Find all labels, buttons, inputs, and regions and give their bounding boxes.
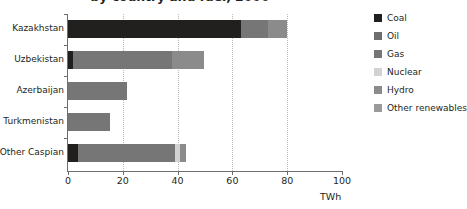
bar-segment-coal[interactable] [68, 20, 241, 38]
x-tick-label-20: 20 [103, 175, 143, 186]
bar-segment-hydro[interactable] [180, 144, 185, 162]
bar-other-caspian[interactable] [68, 144, 186, 162]
legend-item-coal[interactable]: Coal [374, 9, 467, 26]
y-tick-1 [64, 45, 68, 46]
legend-swatch-icon [374, 104, 382, 112]
chart-title: by country and fuel, 2000 [0, 0, 360, 4]
x-tick-label-100: 100 [322, 175, 362, 186]
bar-uzbekistan[interactable] [68, 51, 204, 69]
legend-item-oil[interactable]: Oil [374, 27, 467, 44]
legend-item-nuclear[interactable]: Nuclear [374, 63, 467, 80]
chart-figure: by country and fuel, 2000 KazakhstanUzbe… [0, 0, 467, 209]
legend-label: Nuclear [387, 67, 422, 77]
legend-swatch-icon [374, 14, 382, 22]
bar-segment-hydro[interactable] [172, 51, 204, 69]
y-tick-4 [64, 138, 68, 139]
x-tick-label-0: 0 [48, 175, 88, 186]
x-axis-title: TWh [320, 191, 341, 202]
legend-item-other-renewables[interactable]: Other renewables [374, 99, 467, 116]
y-axis-label-uzbekistan: Uzbekistan [0, 54, 64, 64]
y-tick-3 [64, 107, 68, 108]
gridline-80 [287, 14, 289, 171]
x-tick-label-80: 80 [267, 175, 307, 186]
legend-label: Coal [387, 13, 407, 23]
bar-azerbaijan[interactable] [68, 82, 127, 100]
legend-item-hydro[interactable]: Hydro [374, 81, 467, 98]
plot-area [68, 14, 342, 171]
bar-segment-gas[interactable] [68, 113, 110, 131]
legend-label: Other renewables [387, 103, 467, 113]
legend-label: Hydro [387, 85, 414, 95]
y-axis-label-kazakhstan: Kazakhstan [0, 23, 64, 33]
legend-label: Gas [387, 49, 404, 59]
y-axis-label-azerbaijan: Azerbaijan [0, 85, 64, 95]
legend-swatch-icon [374, 32, 382, 40]
x-tick-label-60: 60 [212, 175, 252, 186]
bar-segment-gas[interactable] [68, 82, 127, 100]
y-axis-label-turkmenistan: Turkmenistan [0, 116, 64, 126]
legend-swatch-icon [374, 68, 382, 76]
legend: CoalOilGasNuclearHydroOther renewables [374, 9, 467, 117]
legend-swatch-icon [374, 50, 382, 58]
bar-turkmenistan[interactable] [68, 113, 110, 131]
x-axis-line [67, 171, 342, 172]
x-tick-label-40: 40 [158, 175, 198, 186]
bar-segment-coal[interactable] [68, 144, 78, 162]
y-tick-2 [64, 76, 68, 77]
y-axis-label-other-caspian: Other Caspian [0, 147, 64, 157]
legend-label: Oil [387, 31, 399, 41]
legend-item-gas[interactable]: Gas [374, 45, 467, 62]
legend-swatch-icon [374, 86, 382, 94]
bar-segment-hydro[interactable] [268, 20, 287, 38]
bar-kazakhstan[interactable] [68, 20, 287, 38]
bar-segment-gas[interactable] [73, 51, 172, 69]
bar-segment-gas[interactable] [241, 20, 268, 38]
y-tick-0 [64, 14, 68, 15]
bar-segment-gas[interactable] [78, 144, 175, 162]
